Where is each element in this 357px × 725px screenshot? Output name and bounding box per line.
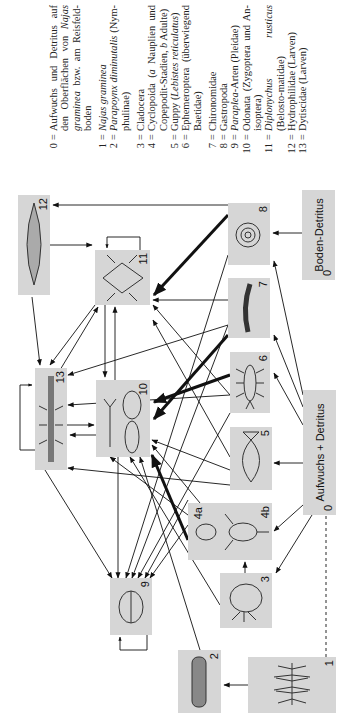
legend-item: 12=Hydrophilidae (Larven) [286,5,297,163]
node-number-4a: 4a [192,507,204,519]
mayfly-larva-icon [230,352,270,413]
node-6-ephemeroptera: 6 [230,352,270,413]
node-number: 11 [137,253,149,264]
node-0-boden-detritus: Boden-Detritus 0 [302,190,335,280]
legend-item: 13=Dytiscidae (Larven) [297,5,308,163]
legend-item: 9=Paraplea-Arten (Pleidae) [229,5,240,163]
node-4-cyclopoida: 4a 4b [188,503,272,560]
food-web-figure: 1 2 3 4a 4b 5 6 7 8 9 10 11 12 [0,0,357,725]
legend-text: Hydrophilidae (Larven) [286,5,297,131]
legend-item: 6=Ephemeroptera (überwiegend Baetidae) [180,5,203,163]
legend-equals: = [229,131,240,143]
legend-equals: = [297,131,308,143]
node-number: 5 [259,430,271,436]
legend-key: 2 [108,143,131,163]
legend-text: Paraplea-Arten (Pleidae) [229,5,240,131]
legend-equals: = [97,131,108,143]
legend-key: 5 [169,143,180,163]
legend-item: 4=Cyclopoida (a Nauplien und Copepodit-S… [146,5,169,163]
node-10-odonata: 10 [96,380,150,457]
node-number: 12 [37,198,49,210]
legend-text: Dytiscidae (Larven) [297,5,308,131]
legend-key: 6 [180,143,203,163]
legend-key: 10 [241,143,264,163]
legend-item: 1=Najas graminea [97,5,108,163]
legend-item: 0=Aufwuchs und Detritus auf den Oberfläc… [48,5,93,163]
legend-key: 12 [286,143,297,163]
legend-key: 0 [48,143,93,163]
legend-equals: = [218,131,229,143]
node-2-parapoynx: 2 [178,650,221,713]
legend-equals: = [286,131,297,143]
node-number: 9 [139,581,151,587]
node-number: 13 [54,371,66,383]
legend-text: Parapoynx diminutalis (Nym-phulinae) [108,5,131,131]
legend-text: Cyclopoida (a Nauplien und Copepodit-Sta… [146,5,169,131]
node-number: 2 [208,653,220,659]
node-7-chironomidae: 7 [228,278,270,338]
legend-item: 11=Diplonychus rusticus (Belosto-matidae… [263,5,286,163]
node-number-4b: 4b [259,506,271,518]
node-5-guppy: 5 [230,427,272,490]
caterpillar-icon [178,650,221,713]
legend-equals: = [108,131,131,143]
legend-equals: = [135,131,146,143]
legend-item: 10=Odonata (Zygoptera und An-isoptera) [241,5,264,163]
legend-item: 7=Chironomidae [207,5,218,163]
legend-item: 5=Guppy (Lebistes reticulatus) [169,5,180,163]
legend-text: Diplonychus rusticus (Belosto-matidae) [263,5,286,131]
legend-key: 13 [297,143,308,163]
legend-key: 9 [229,143,240,163]
legend-equals: = [146,131,169,143]
legend-key: 7 [207,143,218,163]
node-number: 10 [137,383,149,395]
legend-item: 2=Parapoynx diminutalis (Nym-phulinae) [108,5,131,163]
legend-key: 4 [146,143,169,163]
diving-beetle-larva-icon [35,368,67,470]
legend-text: Guppy (Lebistes reticulatus) [169,5,180,131]
legend-text: Cladocera [135,5,146,131]
node-0-aufwuchs-detritus: Aufwuchs + Detritus 0 [303,390,336,515]
node-number: 8 [257,206,269,212]
legend-text: Aufwuchs und Detritus auf den Oberfläche… [48,5,93,131]
legend-text: Odonata (Zygoptera und An-isoptera) [241,5,264,131]
legend-key: 1 [97,143,108,163]
legend-text: Najas graminea [97,5,108,131]
node-13-dytiscidae: 13 [35,368,67,470]
legend-text: Gastropoda [218,5,229,131]
node-12-hydrophilidae: 12 [18,195,50,295]
node-label: Boden-Detritus [313,190,325,280]
legend-text: Chironomidae [207,5,218,131]
legend-equals: = [207,131,218,143]
fish-icon [230,427,272,490]
snail-shell-icon [228,203,270,265]
legend-key: 11 [263,143,286,163]
legend-item: 3=Cladocera [135,5,146,163]
legend-key: 8 [218,143,229,163]
legend-equals: = [180,131,203,143]
legend-item: 8=Gastropoda [218,5,229,163]
legend-equals: = [169,131,180,143]
node-number: 0 [321,270,333,276]
node-number: 7 [257,281,269,287]
node-8-gastropoda: 8 [228,203,270,265]
legend: 0=Aufwuchs und Detritus auf den Oberfläc… [48,5,309,163]
node-number: 6 [257,355,269,361]
legend-equals: = [263,131,286,143]
node-number: 1 [323,660,335,666]
legend-equals: = [241,131,264,143]
legend-key: 3 [135,143,146,163]
node-number: 0 [322,505,334,511]
node-1-najas: 1 [248,657,336,713]
node-number: 3 [259,576,271,582]
node-11-diplonychus: 11 [95,250,150,305]
node-3-cladocera: 3 [220,573,272,628]
legend-text: Ephemeroptera (überwiegend Baetidae) [180,5,203,131]
legend-equals: = [48,131,93,143]
node-9-paraplea: 9 [110,578,152,635]
node-label: Aufwuchs + Detritus [314,390,326,515]
